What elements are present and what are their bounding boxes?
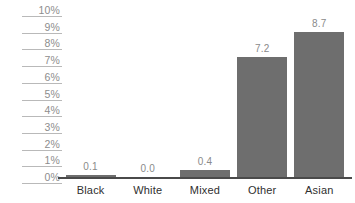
y-axis-tick: 5% [0,87,62,101]
y-axis-tick: 9% [0,20,62,34]
bar-group: 0.4 [176,10,233,177]
bar-chart: 10%9%8%7%6%5%4%3%2%1%0% 0.10.00.47.28.7 … [0,0,355,203]
y-axis-tick-label: 7% [44,53,62,67]
x-axis-labels: BlackWhiteMixedOtherAsian [62,181,348,201]
bar-value-label: 7.2 [255,43,270,54]
y-axis-tick-label: 8% [44,36,62,50]
y-axis-tick: 2% [0,137,62,151]
y-axis-tick-label: 4% [44,103,62,117]
bar-value-label: 0.1 [83,161,98,172]
bar-group: 0.1 [62,10,119,177]
x-axis-category-label: White [119,181,176,201]
y-axis-tick: 8% [0,36,62,50]
y-axis-tick: 7% [0,53,62,67]
y-axis-tick: 3% [0,120,62,134]
bar-value-label: 8.7 [312,18,327,29]
bar-group: 7.2 [234,10,291,177]
y-axis-tick-label: 3% [44,120,62,134]
bar-value-label: 0.0 [141,163,156,174]
x-axis-category-label: Black [62,181,119,201]
y-axis-tick-label: 9% [44,20,62,34]
y-axis-tick: 0% [0,170,62,184]
x-axis-category-label: Other [234,181,291,201]
y-axis-tick-label: 2% [44,137,62,151]
y-axis-tick-label: 6% [44,70,62,84]
bar[interactable] [180,170,230,177]
y-axis-tick: 6% [0,70,62,84]
x-axis-category-label: Asian [291,181,348,201]
bars-container: 0.10.00.47.28.7 [62,10,348,177]
y-axis-tick: 10% [0,3,62,17]
y-axis-tick-label: 10% [38,3,62,17]
y-axis-tick: 1% [0,153,62,167]
y-axis-tick-label: 5% [44,87,62,101]
x-axis-category-label: Mixed [176,181,233,201]
bar[interactable] [237,57,287,177]
bar-group: 0.0 [119,10,176,177]
x-axis-baseline [58,177,352,179]
bar-group: 8.7 [291,10,348,177]
y-axis: 10%9%8%7%6%5%4%3%2%1%0% [0,0,62,180]
y-axis-tick: 4% [0,103,62,117]
bar-value-label: 0.4 [198,156,213,167]
bar[interactable] [294,32,344,177]
y-axis-tick-label: 1% [44,153,62,167]
